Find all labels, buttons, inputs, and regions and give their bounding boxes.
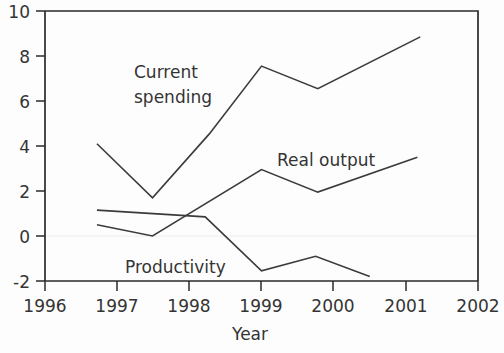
x-axis-tick-labels: 1996 1997 1998 1999 2000 2001 2002 <box>23 296 499 316</box>
x-tick-label: 1997 <box>95 296 138 316</box>
x-tick-label: 1996 <box>23 296 66 316</box>
series-annotation-current-spending: Current spending <box>134 62 212 107</box>
chart-canvas: 10 8 6 4 2 0 -2 1996 1997 1998 1999 2000… <box>0 0 504 353</box>
y-tick-label: 8 <box>19 47 30 67</box>
plot-frame <box>45 11 478 281</box>
x-tick-label: 2002 <box>456 296 499 316</box>
y-tick-label: 10 <box>8 2 30 22</box>
y-tick-label: 6 <box>19 92 30 112</box>
x-tick-label: 2001 <box>384 296 427 316</box>
y-tick-label: 2 <box>19 182 30 202</box>
x-tick-label: 1999 <box>239 296 282 316</box>
y-tick-label: -2 <box>13 272 30 292</box>
series-annotation-productivity: Productivity <box>125 257 226 277</box>
y-axis-tick-labels: 10 8 6 4 2 0 -2 <box>8 2 30 292</box>
x-axis-ticks <box>45 281 478 291</box>
x-axis-title: Year <box>231 324 268 344</box>
y-tick-label: 0 <box>19 227 30 247</box>
annotation-line: spending <box>134 87 212 107</box>
x-tick-label: 1998 <box>167 296 210 316</box>
annotation-line: Current <box>134 62 198 82</box>
line-chart: 10 8 6 4 2 0 -2 1996 1997 1998 1999 2000… <box>0 0 504 353</box>
y-axis-ticks <box>36 11 45 281</box>
x-tick-label: 2000 <box>311 296 354 316</box>
y-tick-label: 4 <box>19 137 30 157</box>
series-annotation-real-output: Real output <box>277 150 375 170</box>
